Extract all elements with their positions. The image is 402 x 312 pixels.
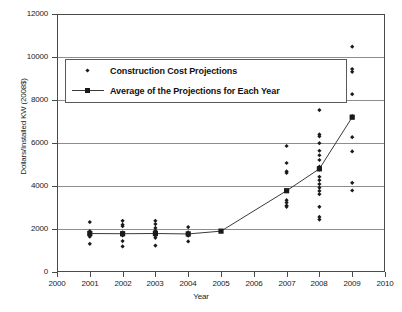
data-point-diamond: [153, 243, 157, 247]
data-point-diamond: [317, 108, 321, 112]
data-point-diamond: [350, 188, 354, 192]
data-point-diamond: [153, 236, 157, 240]
legend-label-average: Average of the Projections for Each Year: [110, 86, 280, 96]
data-point-diamond: [285, 144, 289, 148]
data-point-diamond: [317, 217, 321, 221]
data-point-diamond: [350, 70, 354, 74]
data-marks-layer: [0, 0, 402, 312]
legend: Construction Cost Projections Average of…: [65, 59, 347, 103]
data-point-diamond: [350, 45, 354, 49]
average-point-square: [350, 115, 355, 120]
data-point-diamond: [350, 135, 354, 139]
data-point-diamond: [317, 158, 321, 162]
diamond-marker-icon: [66, 61, 110, 81]
data-point-diamond: [350, 181, 354, 185]
data-point-diamond: [88, 220, 92, 224]
data-point-diamond: [317, 153, 321, 157]
legend-item-average: Average of the Projections for Each Year: [66, 81, 346, 101]
data-point-diamond: [121, 244, 125, 248]
data-point-diamond: [186, 225, 190, 229]
data-point-diamond: [317, 178, 321, 182]
data-point-diamond: [317, 182, 321, 186]
data-point-diamond: [285, 161, 289, 165]
data-point-diamond: [317, 205, 321, 209]
data-point-diamond: [121, 239, 125, 243]
average-point-square: [87, 231, 92, 236]
data-point-diamond: [350, 149, 354, 153]
legend-label-projections: Construction Cost Projections: [110, 66, 237, 76]
average-line: [90, 117, 352, 234]
data-point-diamond: [317, 141, 321, 145]
legend-item-projections: Construction Cost Projections: [66, 61, 346, 81]
scatter-chart: 12000 10000 8000 6000 4000 2000 0 2000 2…: [0, 0, 402, 312]
data-point-diamond: [317, 149, 321, 153]
data-point-diamond: [186, 239, 190, 243]
data-point-diamond: [317, 192, 321, 196]
average-point-square: [284, 188, 289, 193]
data-point-diamond: [88, 242, 92, 246]
average-point-square: [186, 231, 191, 236]
average-point-square: [120, 231, 125, 236]
line-square-marker-icon: [66, 81, 110, 101]
average-point-square: [317, 166, 322, 171]
data-point-diamond: [350, 92, 354, 96]
average-point-square: [153, 231, 158, 236]
data-point-diamond: [153, 222, 157, 226]
average-point-square: [218, 229, 223, 234]
data-point-diamond: [121, 219, 125, 223]
